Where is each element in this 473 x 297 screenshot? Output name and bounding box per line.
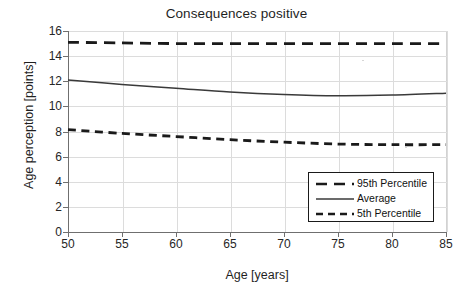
legend-item-95th: 95th Percentile (309, 176, 435, 191)
scan-artifact (362, 60, 364, 61)
series-line-average (68, 80, 446, 96)
legend-label-5th: 5th Percentile (357, 208, 421, 219)
legend-label-95th: 95th Percentile (357, 178, 427, 189)
chart-figure: Consequences positive Age perception [po… (0, 0, 473, 297)
chart-legend: 95th Percentile Average 5th Percentile (308, 172, 434, 222)
series-line-5th-percentile (68, 130, 446, 145)
legend-item-5th: 5th Percentile (309, 206, 435, 221)
legend-swatch-dashed-long (315, 177, 355, 191)
legend-swatch-solid (315, 192, 355, 206)
legend-swatch-dashed-short (315, 207, 355, 221)
series-line-95th-percentile (68, 42, 446, 43)
data-series-layer (0, 0, 473, 297)
legend-item-average: Average (309, 191, 435, 206)
legend-label-average: Average (357, 193, 396, 204)
scan-artifact (405, 146, 407, 148)
